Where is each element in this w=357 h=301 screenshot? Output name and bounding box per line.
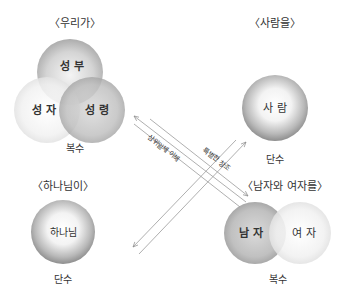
group-male-female-title: 〈남자와 여자를〉: [242, 180, 328, 193]
circle-man-label: 사 람: [263, 102, 287, 115]
group-god-title: 〈하나님이〉: [32, 179, 94, 193]
group-god-count: 단수: [54, 274, 72, 285]
circle-father-label: 성 부: [60, 59, 84, 73]
group-male-female-count: 복수: [269, 274, 287, 285]
arrow-creation-label: 특별한 창조: [201, 146, 233, 174]
circle-god-label: 하나님: [50, 226, 77, 238]
circle-female-label: 여 자: [292, 227, 316, 240]
circle-son-label: 성 자: [32, 103, 57, 117]
group-man-count: 단수: [266, 154, 284, 165]
group-we-title: 〈우리가〉: [49, 17, 101, 30]
group-man: 〈사람을〉 사 람 단수: [242, 17, 308, 165]
circle-male-label: 남 자: [239, 226, 264, 240]
trinity-creation-diagram: 〈우리가〉 성 부 성 자 성 령 복수 〈사람을〉 사 람 단수 〈하나님이〉…: [0, 0, 357, 301]
arrow-trinity-understanding: [134, 116, 246, 207]
group-male-female: 〈남자와 여자를〉 남 자 여 자 복수: [224, 180, 331, 285]
arrow-line-lower-left: [133, 140, 236, 247]
group-man-title: 〈사람을〉: [249, 17, 301, 30]
circle-spirit-label: 성 령: [85, 103, 109, 117]
arrow-line-down-right: [150, 119, 248, 196]
arrow-line-upper-left: [134, 116, 246, 202]
group-god: 〈하나님이〉 하나님 단수: [31, 179, 95, 285]
group-we: 〈우리가〉 성 부 성 자 성 령 복수: [14, 17, 125, 154]
group-we-count: 복수: [66, 143, 84, 154]
arrow-special-creation-down: [150, 119, 248, 196]
